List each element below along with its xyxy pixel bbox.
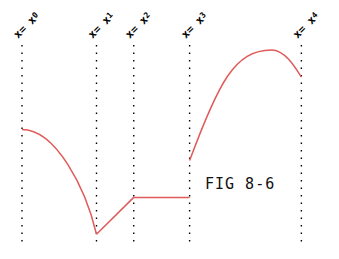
marker-label-x3: x= x3 xyxy=(179,10,210,41)
marker-label-x1: x= x1 xyxy=(85,10,116,41)
curve-hump xyxy=(190,50,302,161)
marker-label-x4: x= x4 xyxy=(290,10,321,41)
curve-concave-drop xyxy=(22,129,97,234)
figure-canvas: x= x0x= x1x= x2x= x3x= x4 FIG 8-6 xyxy=(0,0,339,259)
figure-caption: FIG 8-6 xyxy=(205,175,275,193)
curve-linear-rise xyxy=(97,197,134,234)
marker-label-x2: x= x2 xyxy=(123,10,154,41)
marker-label-x0: x= x0 xyxy=(11,10,42,41)
